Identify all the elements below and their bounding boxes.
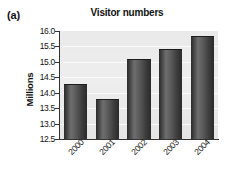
chart-title: Visitor numbers: [62, 7, 192, 18]
y-axis-tick-label: 14.5: [25, 72, 55, 82]
y-axis-tick: [55, 46, 59, 47]
y-axis-tick: [55, 62, 59, 63]
y-axis-spine: [59, 31, 60, 140]
y-axis-tick: [55, 124, 59, 125]
y-axis-tick: [55, 139, 59, 140]
bar: [127, 59, 150, 139]
y-axis-tick: [55, 108, 59, 109]
y-axis-tick: [55, 77, 59, 78]
y-axis-tick-labels: 16.015.515.014.514.013.513.012.5: [19, 0, 55, 179]
figure-panel: (a) Visitor numbers Millions 16.015.515.…: [0, 0, 235, 179]
y-axis-tick-label: 12.5: [25, 134, 55, 144]
panel-label: (a): [7, 9, 20, 21]
y-axis-tick-label: 13.5: [25, 103, 55, 113]
bar: [191, 36, 214, 139]
y-axis-tick: [55, 93, 59, 94]
y-axis-tick-label: 13.0: [25, 119, 55, 129]
y-axis-tick-label: 16.0: [25, 26, 55, 36]
bar: [159, 49, 182, 139]
y-axis-tick-label: 14.0: [25, 88, 55, 98]
y-axis-tick-label: 15.0: [25, 57, 55, 67]
y-axis-tick-label: 15.5: [25, 41, 55, 51]
plot-area: [60, 31, 218, 139]
y-axis-tick: [55, 31, 59, 32]
